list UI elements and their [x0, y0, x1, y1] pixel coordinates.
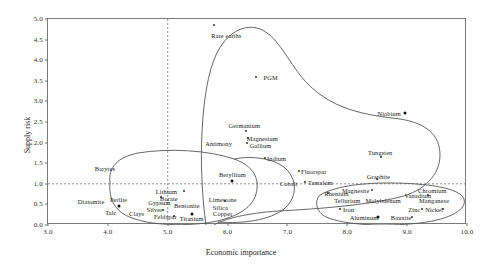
- x-tick-label: 3.0: [43, 228, 52, 236]
- point-label-talc: Talc: [105, 208, 116, 215]
- x-tick-mark: [167, 223, 168, 226]
- y-tick-mark: [45, 163, 48, 164]
- rare-earths-marker[interactable]: [213, 24, 215, 26]
- perlite-marker[interactable]: [117, 205, 120, 208]
- point-label-beryllium: Beryllium: [219, 170, 246, 177]
- y-tick-label: 0.5: [34, 200, 43, 208]
- point-label-gypsum: Gypsum: [148, 199, 170, 206]
- point-label-indium: Indium: [267, 155, 286, 162]
- point-label-aluminum: Aluminum: [350, 213, 379, 220]
- x-axis-label: Economic importance: [0, 248, 482, 257]
- y-tick-mark: [45, 204, 48, 205]
- x-tick-label: 4.0: [103, 228, 112, 236]
- point-label-rare-earths: Rare earths: [211, 32, 241, 39]
- y-tick-label: 0.0: [34, 221, 43, 229]
- point-label-graphite: Graphite: [367, 172, 390, 179]
- x-tick-label: 7.0: [283, 228, 292, 236]
- y-tick-mark: [45, 60, 48, 61]
- point-label-cobalt: Cobalt: [280, 179, 298, 186]
- x-tick-mark: [227, 223, 228, 226]
- point-label-bauxite: Bauxite: [391, 213, 412, 220]
- y-tick-mark: [45, 101, 48, 102]
- y-tick-mark: [45, 80, 48, 81]
- point-label-magnesite: Magnesite: [342, 186, 370, 193]
- point-label-tantalum: Tantalum: [308, 179, 333, 186]
- iron-marker[interactable]: [339, 208, 341, 210]
- pgm-marker[interactable]: [255, 76, 257, 78]
- point-label-titanium: Titanium: [180, 214, 204, 221]
- x-tick-mark: [467, 223, 468, 226]
- magnesite-marker[interactable]: [371, 189, 373, 191]
- point-label-molybdenum: Molybdenum: [365, 197, 400, 204]
- point-label-gallium: Gallium: [250, 142, 272, 149]
- germanium-marker[interactable]: [245, 130, 247, 132]
- zinc-marker[interactable]: [421, 208, 423, 210]
- point-label-copper: Copper: [213, 209, 232, 216]
- y-tick-label: 1.5: [34, 159, 43, 167]
- beryllium-marker[interactable]: [231, 179, 234, 182]
- x-tick-label: 9.0: [402, 228, 411, 236]
- indium-marker[interactable]: [264, 157, 266, 159]
- tungsten-marker[interactable]: [380, 156, 382, 158]
- point-label-perlite: Perlite: [110, 196, 127, 203]
- x-tick-mark: [407, 223, 408, 226]
- x-tick-mark: [287, 223, 288, 226]
- point-label-barytes: Barytes: [95, 165, 115, 172]
- point-label-tungsten: Tungsten: [368, 148, 392, 155]
- x-tick-label: 10.0: [460, 228, 473, 236]
- point-label-niobium: Niobium: [377, 109, 400, 116]
- y-tick-mark: [45, 142, 48, 143]
- y-tick-mark: [45, 122, 48, 123]
- y-tick-label: 2.0: [34, 139, 43, 147]
- point-label-tellurium: Tellurium: [334, 197, 360, 204]
- point-label-clays: Clays: [129, 209, 144, 216]
- y-tick-label: 5.0: [34, 15, 43, 23]
- point-label-bentonite: Bentonite: [174, 202, 200, 209]
- y-tick-mark: [45, 183, 48, 184]
- point-label-zinc: Zinc: [408, 205, 420, 212]
- point-label-magnesium: Magnesium: [247, 134, 278, 141]
- point-label-antimony: Antimony: [205, 140, 232, 147]
- scatter-chart-figure: Supply risk Economic importance 0.0 0.5 …: [0, 0, 482, 269]
- point-label-germanium: Germanium: [229, 122, 260, 129]
- point-label-pgm: PGM: [264, 73, 278, 80]
- y-tick-label: 3.0: [34, 97, 43, 105]
- point-label-diatomite: Diatomite: [78, 198, 104, 205]
- y-tick-label: 1.0: [34, 180, 43, 188]
- x-tick-mark: [48, 223, 49, 226]
- y-tick-label: 3.5: [34, 77, 43, 85]
- y-tick-label: 4.5: [34, 36, 43, 44]
- gallium-marker[interactable]: [246, 142, 248, 144]
- tantalum-marker[interactable]: [304, 181, 306, 183]
- y-axis-label: Supply risk: [23, 116, 32, 153]
- point-label-fluorspar: Fluorspar: [301, 167, 326, 174]
- y-tick-label: 4.0: [34, 56, 43, 64]
- point-label-nickel: Nickel: [425, 206, 443, 213]
- lithium-marker[interactable]: [183, 190, 185, 192]
- y-tick-mark: [45, 19, 48, 20]
- plot-area: 0.0 0.5 1.0 1.5 2.0 2.5 3.0 3.5 4.0 4.5 …: [47, 18, 466, 224]
- point-label-limestone: Limestone: [209, 195, 237, 202]
- point-label-iron: Iron: [343, 206, 354, 213]
- x-tick-label: 5.0: [163, 228, 172, 236]
- point-label-manganese: Manganese: [419, 197, 449, 204]
- niobium-marker[interactable]: [404, 111, 407, 114]
- point-label-feldspar: Feldspar: [154, 212, 177, 219]
- x-tick-label: 8.0: [343, 228, 352, 236]
- y-tick-label: 2.5: [34, 118, 43, 126]
- y-tick-mark: [45, 39, 48, 40]
- x-tick-mark: [107, 223, 108, 226]
- x-tick-mark: [347, 223, 348, 226]
- x-tick-label: 6.0: [223, 228, 232, 236]
